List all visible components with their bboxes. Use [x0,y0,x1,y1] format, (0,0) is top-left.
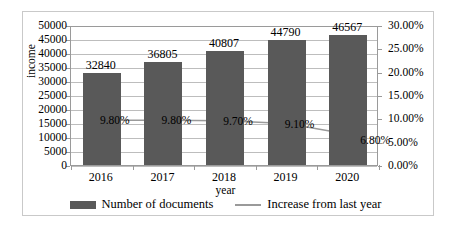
gridline [71,166,377,167]
y2-axis-tick [378,119,382,120]
bar-value-label: 32840 [66,58,136,73]
line-value-label: 9.10% [272,118,328,130]
line-value-label: 6.80% [347,134,403,146]
y-axis-tick-label: 50000 [7,20,67,32]
line-value-label: 9.80% [87,114,143,126]
y2-axis-tick-label: 20.00% [388,67,448,79]
line-value-label: 9.70% [210,115,266,127]
y-axis-tick-label: 35000 [7,62,67,74]
bar[interactable] [206,51,244,165]
bar[interactable] [268,40,306,165]
x-axis-tick-label: 2019 [255,170,317,185]
y2-axis-tick-label: 0.00% [388,160,448,172]
x-axis-tick-label: 2018 [193,170,255,185]
y2-axis-tick-label: 15.00% [388,90,448,102]
bar-swatch-icon [70,201,96,209]
bar-value-label: 46567 [312,20,382,35]
y2-axis-tick [378,73,382,74]
bar-value-label: 44790 [251,25,321,40]
y2-axis-tick [378,96,382,97]
y-axis-tick-label: 10000 [7,132,67,144]
chart-container: income year Number of documents Increase… [0,0,451,230]
y-axis-tick-label: 20000 [7,104,67,116]
y2-axis-tick-label: 30.00% [388,20,448,32]
x-axis-tick-label: 2016 [70,170,132,185]
legend-item-number-of-documents[interactable]: Number of documents [70,197,214,212]
x-axis-title: year [0,184,451,196]
y-axis-tick-label: 5000 [7,146,67,158]
x-axis-tick-label: 2020 [316,170,378,185]
legend-label: Number of documents [102,197,214,212]
line-swatch-icon [235,204,261,206]
y-axis-tick-label: 0 [7,160,67,172]
y-axis-tick-label: 15000 [7,118,67,130]
x-axis-tick [379,165,380,170]
y-axis-tick-label: 40000 [7,48,67,60]
bar-value-label: 36805 [127,47,197,62]
chart-legend: Number of documents Increase from last y… [0,197,451,212]
legend-label: Increase from last year [267,197,381,212]
x-axis-tick-label: 2017 [131,170,193,185]
y-axis-tick-label: 30000 [7,76,67,88]
bar-value-label: 40807 [189,36,259,51]
y2-axis-tick-label: 25.00% [388,43,448,55]
y-axis-tick-label: 45000 [7,34,67,46]
y2-axis-tick [378,49,382,50]
legend-item-increase-from-last-year[interactable]: Increase from last year [235,197,381,212]
line-value-label: 9.80% [148,114,204,126]
y2-axis-tick-label: 10.00% [388,113,448,125]
y-axis-tick-label: 25000 [7,90,67,102]
